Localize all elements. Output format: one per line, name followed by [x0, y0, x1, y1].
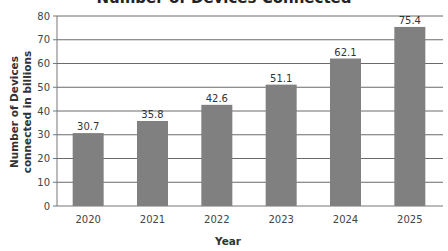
y-tick-label: 10 — [37, 177, 50, 188]
x-tick-label: 2025 — [397, 214, 422, 225]
y-tick-label: 50 — [37, 82, 50, 93]
data-label: 75.4 — [399, 15, 421, 26]
data-label: 62.1 — [334, 47, 356, 58]
x-tick-label: 2021 — [140, 214, 165, 225]
bar-2025 — [394, 27, 425, 206]
x-tick-label: 2020 — [75, 214, 100, 225]
y-tick-label: 80 — [37, 11, 50, 22]
y-tick-label: 0 — [44, 201, 50, 212]
x-tick-label: 2024 — [333, 214, 358, 225]
y-tick-label: 20 — [37, 153, 50, 164]
bar-2023 — [266, 85, 297, 206]
data-label: 30.7 — [77, 121, 99, 132]
bar-2021 — [137, 121, 168, 206]
data-label: 35.8 — [141, 109, 163, 120]
bar-chart-plot: 0102030405060708030.7202035.8202142.6202… — [0, 0, 448, 251]
y-tick-label: 60 — [37, 58, 50, 69]
y-tick-label: 70 — [37, 34, 50, 45]
x-tick-label: 2023 — [268, 214, 293, 225]
data-label: 51.1 — [270, 73, 292, 84]
data-label: 42.6 — [206, 93, 228, 104]
y-tick-label: 30 — [37, 129, 50, 140]
x-tick-label: 2022 — [204, 214, 229, 225]
bar-2022 — [201, 105, 232, 206]
y-tick-label: 40 — [37, 106, 50, 117]
bar-2020 — [73, 133, 104, 206]
bar-2024 — [330, 59, 361, 206]
